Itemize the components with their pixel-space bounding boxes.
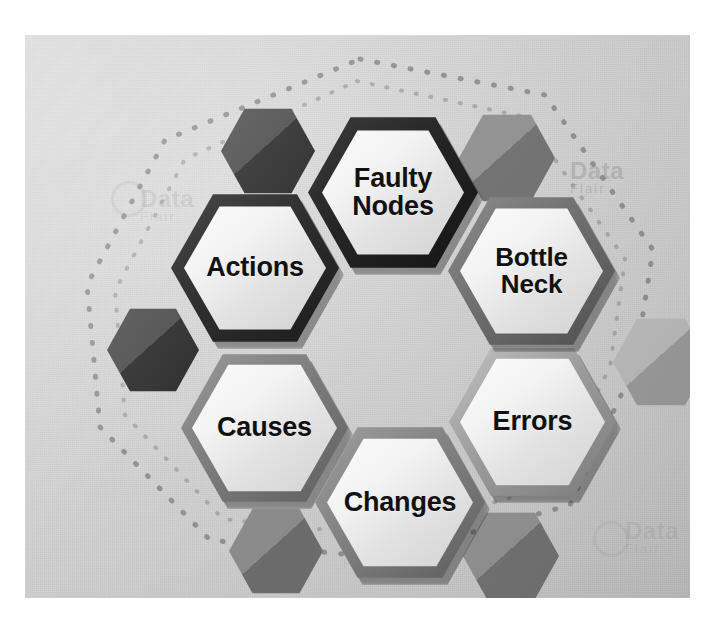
diagram-canvas: Data Flair Data Flair Data Flair Data Fl… <box>25 35 690 598</box>
hexagon-tile-changes[interactable]: Changes <box>315 425 485 580</box>
hexagon-tile-faulty-nodes[interactable]: Faulty Nodes <box>308 115 478 270</box>
hexagon-tile-layer: Causes Errors Bottle <box>25 35 690 598</box>
tile-label-faulty-nodes: Faulty Nodes <box>308 115 478 270</box>
image-root: Data Flair Data Flair Data Flair Data Fl… <box>0 0 717 627</box>
tile-label-changes: Changes <box>315 425 485 580</box>
